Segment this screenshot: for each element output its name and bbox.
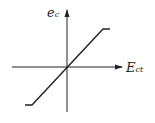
y-axis-label: ec <box>47 6 59 19</box>
y-axis-label-main: e <box>47 5 55 20</box>
x-axis-label: Ect <box>126 61 143 74</box>
x-axis-label-subscript: ct <box>136 65 144 74</box>
x-axis-label-main: E <box>126 60 136 75</box>
y-axis-label-subscript: c <box>55 10 59 19</box>
